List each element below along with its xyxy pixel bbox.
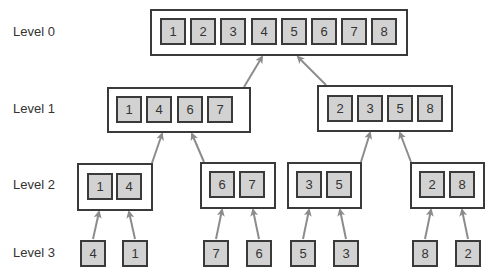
- leaf-cell: 8: [412, 240, 438, 267]
- cell: 1: [160, 18, 186, 45]
- level-2-label: Level 2: [13, 177, 55, 192]
- level-1-label: Level 1: [13, 101, 55, 116]
- cell: 3: [357, 95, 383, 122]
- arrow-l3-7: [216, 210, 222, 239]
- arrow-l2c-to-l1: [361, 133, 370, 162]
- arrow-l2d-to-l1: [400, 133, 411, 162]
- level-0-label: Level 0: [13, 24, 55, 39]
- cell: 4: [116, 173, 142, 200]
- level-3-label: Level 3: [13, 245, 55, 260]
- arrow-l3-5: [303, 210, 309, 239]
- arrow-l3-8: [425, 210, 431, 239]
- leaf-cell: 1: [122, 240, 148, 267]
- arrow-l3-6: [253, 210, 259, 239]
- cell: 6: [209, 171, 235, 198]
- cell: 1: [87, 173, 113, 200]
- arrow-l1-right-to-l0: [298, 57, 326, 85]
- cell: 5: [281, 18, 307, 45]
- arrow-l2a-to-l1: [152, 134, 162, 163]
- cell: 2: [190, 18, 216, 45]
- cell: 7: [239, 171, 265, 198]
- arrow-l3-2: [462, 210, 468, 239]
- cell: 3: [220, 18, 246, 45]
- leaf-cell: 6: [246, 240, 272, 267]
- cell: 8: [371, 18, 397, 45]
- cell: 1: [116, 96, 142, 123]
- cell: 6: [177, 96, 203, 123]
- cell: 8: [417, 95, 443, 122]
- cell: 5: [326, 171, 352, 198]
- level-0-group: [150, 9, 408, 56]
- cell: 4: [146, 96, 172, 123]
- cell: 7: [341, 18, 367, 45]
- arrow-l3-1: [129, 212, 135, 239]
- cell: 7: [207, 96, 233, 123]
- arrow-l3-3: [340, 210, 346, 239]
- cell: 8: [449, 171, 475, 198]
- leaf-cell: 3: [333, 240, 359, 267]
- arrow-l2b-to-l1: [192, 134, 204, 162]
- leaf-cell: 7: [203, 240, 229, 267]
- leaf-cell: 5: [290, 240, 316, 267]
- cell: 6: [311, 18, 337, 45]
- cell: 3: [296, 171, 322, 198]
- arrow-l3-4: [93, 212, 99, 239]
- leaf-cell: 4: [80, 240, 106, 267]
- leaf-cell: 2: [455, 240, 481, 267]
- cell: 4: [251, 18, 277, 45]
- cell: 2: [419, 171, 445, 198]
- cell: 5: [387, 95, 413, 122]
- cell: 2: [327, 95, 353, 122]
- arrow-l1-left-to-l0: [244, 57, 262, 87]
